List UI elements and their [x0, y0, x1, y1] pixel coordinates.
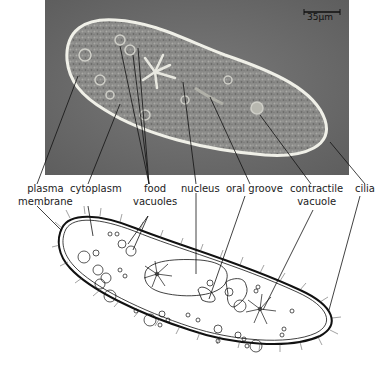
- label-line: cilia: [355, 182, 375, 195]
- label-oral-groove: oral groove: [226, 182, 283, 195]
- label-line: vacuoles: [133, 195, 177, 208]
- label-line: food: [133, 182, 177, 195]
- label-cytoplasm: cytoplasm: [70, 182, 122, 195]
- label-line: cytoplasm: [70, 182, 122, 195]
- label-plasma-membrane: plasma membrane: [18, 182, 73, 208]
- label-contractile-vacuole: contractile vacuole: [290, 182, 343, 208]
- label-cilia: cilia: [355, 182, 375, 195]
- label-line: contractile: [290, 182, 343, 195]
- label-line: nucleus: [181, 182, 220, 195]
- label-line: plasma: [18, 182, 73, 195]
- label-line: oral groove: [226, 182, 283, 195]
- label-line: membrane: [18, 195, 73, 208]
- label-food-vacuoles: food vacuoles: [133, 182, 177, 208]
- paramecium-drawing: [52, 206, 341, 352]
- label-line: vacuole: [290, 195, 343, 208]
- label-nucleus: nucleus: [181, 182, 220, 195]
